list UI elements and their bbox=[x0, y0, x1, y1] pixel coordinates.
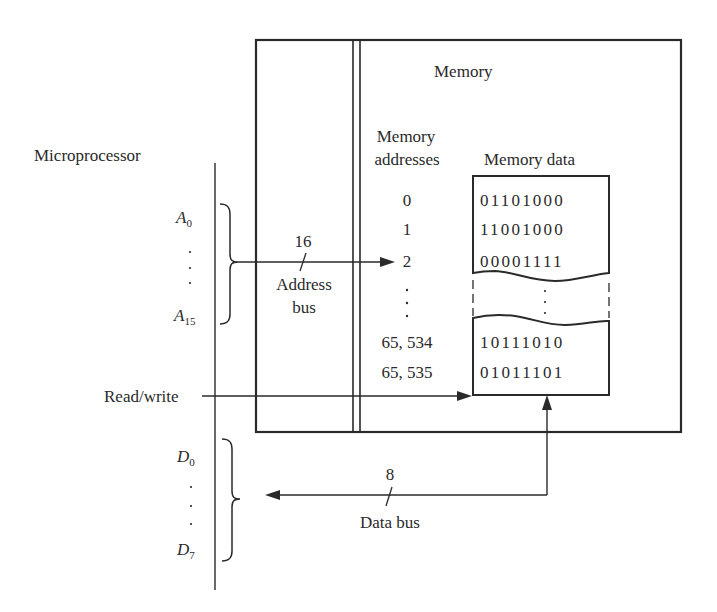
ellipsis-dot bbox=[406, 302, 408, 304]
memory-data-value: 01011101 bbox=[480, 363, 564, 382]
data-line-first: D0 bbox=[176, 447, 195, 468]
address-bus-width: 16 bbox=[295, 232, 312, 251]
memory-data-value: 00001111 bbox=[480, 252, 564, 271]
memory-interface-diagram: Microprocessor Memory Memory addresses M… bbox=[0, 0, 717, 612]
address-line-last: A15 bbox=[173, 306, 196, 327]
microprocessor-label: Microprocessor bbox=[34, 146, 141, 165]
ellipsis-dot bbox=[190, 505, 192, 507]
data-brace bbox=[222, 439, 240, 561]
address-value: 65, 535 bbox=[382, 363, 433, 382]
ellipsis-dot bbox=[189, 282, 191, 284]
ellipsis-dot bbox=[406, 289, 408, 291]
addresses-header: addresses bbox=[374, 150, 439, 169]
memory-label: Memory bbox=[434, 62, 493, 81]
data-bus-label: Data bus bbox=[360, 513, 420, 532]
ellipsis-dot bbox=[406, 315, 408, 317]
address-value: 65, 534 bbox=[382, 333, 434, 352]
address-bus-label: bus bbox=[292, 298, 316, 317]
address-value: 1 bbox=[403, 220, 412, 239]
read-write-arrowhead bbox=[457, 391, 472, 401]
ellipsis-dot bbox=[190, 486, 192, 488]
memory-data-value: 10111010 bbox=[480, 333, 564, 352]
memory-data-value: 01101000 bbox=[480, 191, 565, 210]
addresses-header: Memory bbox=[377, 127, 436, 146]
data-bus-arrowhead-up bbox=[542, 395, 552, 410]
ellipsis-dot bbox=[544, 301, 546, 303]
memory-block bbox=[256, 40, 681, 432]
ellipsis-dot bbox=[189, 251, 191, 253]
data-bus-width: 8 bbox=[386, 465, 395, 484]
data-header: Memory data bbox=[484, 150, 576, 169]
address-brace bbox=[220, 204, 238, 324]
address-value: 2 bbox=[403, 252, 412, 271]
address-line-first: A0 bbox=[175, 208, 192, 229]
address-bus-arrowhead bbox=[380, 257, 395, 267]
memory-data-value: 11001000 bbox=[480, 220, 565, 239]
address-value: 0 bbox=[403, 191, 412, 210]
ellipsis-dot bbox=[544, 290, 546, 292]
ellipsis-dot bbox=[544, 312, 546, 314]
read-write-label: Read/write bbox=[104, 387, 179, 406]
memory-data-bottom bbox=[473, 315, 609, 395]
ellipsis-dot bbox=[189, 267, 191, 269]
data-bus-slash bbox=[386, 487, 392, 506]
address-bus-label: Address bbox=[276, 275, 332, 294]
data-bus-arrowhead-left bbox=[265, 490, 280, 500]
ellipsis-dot bbox=[190, 523, 192, 525]
data-line-last: D7 bbox=[176, 540, 195, 561]
